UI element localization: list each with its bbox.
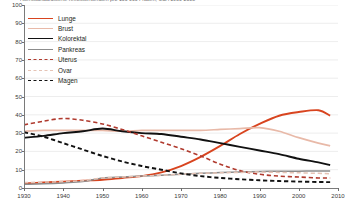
y-axis-tick-label: 20 [15, 148, 22, 154]
legend-swatch-pankreas [28, 49, 53, 50]
chart-title: Altersstandardisierte Krebssterberaten p… [20, 0, 320, 3]
legend-swatch-ovar [28, 70, 53, 71]
legend-label-lunge: Lunge [58, 15, 76, 22]
y-axis-tick-label: 100 [12, 2, 22, 8]
y-axis-tick-label: 40 [15, 112, 22, 118]
x-axis-tick-mark [260, 188, 261, 191]
legend-label-pankreas: Pankreas [58, 46, 85, 53]
x-axis-tick-mark [338, 188, 339, 191]
x-axis-tick-mark [63, 188, 64, 191]
x-axis-tick-mark [181, 188, 182, 191]
x-axis-tick-label: 1930 [17, 193, 30, 200]
legend-label-ovar: Ovar [58, 67, 72, 74]
legend-swatch-kolorektal [28, 38, 53, 39]
y-axis-tick-label: 80 [15, 39, 22, 45]
legend-swatch-brust [28, 28, 53, 29]
y-axis-tick-label: 0 [19, 185, 22, 191]
y-axis-tick-label: 60 [15, 75, 22, 81]
legend-label-brust: Brust [58, 25, 73, 32]
y-axis-tick-label: 50 [15, 94, 22, 100]
legend-item-kolorektal[interactable]: Kolorektal [28, 34, 86, 44]
x-axis-tick-label: 1990 [253, 193, 266, 200]
y-axis-line [24, 5, 25, 188]
y-axis-tick-label: 30 [15, 130, 22, 136]
legend-label-magen: Magen [58, 77, 78, 84]
legend-swatch-lunge [28, 18, 53, 19]
x-axis-tick-label: 2000 [292, 193, 305, 200]
x-axis-tick-mark [142, 188, 143, 191]
legend-label-kolorektal: Kolorektal [58, 35, 86, 42]
legend-label-uterus: Uterus [58, 56, 77, 63]
legend-item-uterus[interactable]: Uterus [28, 55, 86, 65]
x-axis-tick-mark [220, 188, 221, 191]
legend-item-magen[interactable]: Magen [28, 75, 86, 85]
legend-swatch-magen [28, 80, 53, 81]
x-axis-tick-label: 2010 [331, 193, 344, 200]
series-line-uterus [24, 118, 330, 178]
x-axis-tick-label: 1970 [174, 193, 187, 200]
legend-item-lunge[interactable]: Lunge [28, 13, 86, 23]
x-axis-tick-label: 1980 [214, 193, 227, 200]
legend-item-ovar[interactable]: Ovar [28, 65, 86, 75]
legend-swatch-uterus [28, 59, 53, 60]
chart-legend: LungeBrustKolorektalPankreasUterusOvarMa… [28, 13, 86, 86]
y-axis-tick-label: 70 [15, 57, 22, 63]
legend-item-brust[interactable]: Brust [28, 23, 86, 33]
x-axis-tick-mark [299, 188, 300, 191]
x-axis-tick-mark [24, 188, 25, 191]
y-axis-tick-label: 10 [15, 167, 22, 173]
y-axis-tick-label: 90 [15, 20, 22, 26]
x-axis-tick-mark [103, 188, 104, 191]
x-axis-tick-label: 1950 [96, 193, 109, 200]
x-axis-tick-label: 1940 [57, 193, 70, 200]
legend-item-pankreas[interactable]: Pankreas [28, 44, 86, 54]
x-axis-tick-label: 1960 [135, 193, 148, 200]
